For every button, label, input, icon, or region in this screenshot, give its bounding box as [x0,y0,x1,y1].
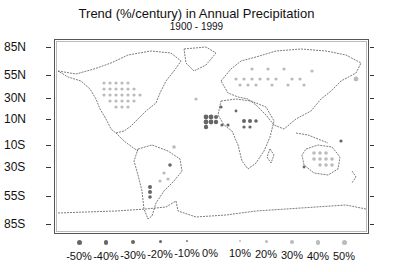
world-map [56,41,367,232]
dot-icon [265,240,268,243]
dot-icon [159,240,162,243]
y-tick [46,224,51,225]
y-tick [46,196,51,197]
right-tick [370,167,374,168]
dot-icon [186,240,188,242]
legend-item: 50% [327,240,361,262]
y-tick-label: 30N [4,91,44,105]
y-tick-label: 10N [4,112,44,126]
right-tick [370,47,374,48]
y-tick [46,167,51,168]
y-tick-label: 10S [4,138,44,152]
right-tick [370,196,374,197]
y-tick-label: 85N [4,40,44,54]
chart-title: Trend (%/century) in Annual Precipitatio… [0,6,393,21]
dot-icon [316,240,321,245]
trend-dots-positive [102,67,358,182]
y-tick [46,98,51,99]
dot-icon [209,240,211,242]
y-tick-label: 85S [4,217,44,231]
legend: -50% -40% -30% -20% -10% 0% 10% 20% 30% … [0,240,393,272]
dot-icon [104,240,109,245]
y-tick-label: 55S [4,189,44,203]
right-tick [370,75,374,76]
coastlines [58,47,366,219]
dot-icon [131,240,135,244]
dot-icon [239,240,241,242]
dot-icon [290,240,294,244]
right-tick [370,98,374,99]
right-tick [370,145,374,146]
y-tick [46,145,51,146]
dot-icon [77,240,82,245]
chart-subtitle: 1900 - 1999 [0,21,393,32]
y-tick-label: 55N [4,68,44,82]
y-tick [46,119,51,120]
y-tick-label: 30S [4,160,44,174]
dot-icon [342,240,347,245]
right-tick [370,224,374,225]
right-tick [370,119,374,120]
legend-item: 0% [193,240,227,259]
y-tick [46,47,51,48]
y-tick [46,75,51,76]
